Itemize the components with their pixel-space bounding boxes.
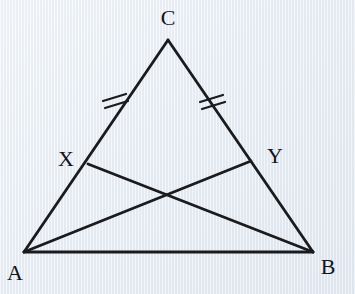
side-bc (168, 40, 313, 252)
tick-cy-upper (200, 95, 223, 102)
geometry-diagram: C A B X Y (0, 0, 355, 294)
vertex-label-c: C (161, 5, 176, 30)
vertex-label-b: B (321, 254, 336, 279)
vertex-label-a: A (7, 260, 23, 285)
cevian-xb (88, 164, 313, 252)
cevian-ay (24, 161, 251, 252)
scanned-page-background: C A B X Y (0, 0, 355, 294)
tick-cx-upper (103, 94, 126, 101)
point-label-y: Y (267, 143, 283, 168)
side-ac (24, 40, 168, 252)
point-label-x: X (58, 146, 74, 171)
